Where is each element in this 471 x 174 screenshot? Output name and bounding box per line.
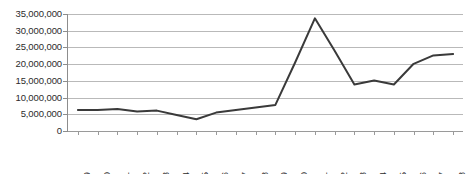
x-axis-tick-label: 1989 [82,172,92,174]
x-axis-tick-label: 1994 [181,172,191,174]
x-axis-tick [98,131,99,135]
y-axis-tick-label: 15,000,000 [0,76,62,86]
x-axis-tick [315,131,316,135]
plot-area [68,14,463,131]
x-axis-tick [177,131,178,135]
x-axis-tick-label: 1990 [102,172,112,174]
x-axis-tick [216,131,217,135]
x-axis-tick-label: 1998 [260,172,270,174]
x-axis-tick-label: 1991 [121,172,131,174]
y-axis-tick-label: 5,000,000 [0,109,62,119]
x-axis-tick [354,131,355,135]
x-axis-tick-label: 1992 [141,172,151,174]
x-axis-tick [236,131,237,135]
x-axis-tick-label: 2003 [358,172,368,174]
series-line [78,18,453,119]
x-axis-tick-label: 1996 [220,172,230,174]
x-axis-tick-label: 1995 [200,172,210,174]
x-axis-tick [335,131,336,135]
x-axis-tick [453,131,454,135]
y-axis-tick-label: 35,000,000 [0,9,62,19]
x-axis-tick [394,131,395,135]
x-axis-tick-label: 2007 [437,172,447,174]
y-axis-tick-label: 25,000,000 [0,42,62,52]
x-axis-tick [275,131,276,135]
x-axis-tick-label: 2001 [319,172,329,174]
x-axis-tick-label: 2004 [378,172,388,174]
x-axis-tick [256,131,257,135]
y-axis-tick-label: 0 [0,126,62,136]
series-line-group [68,14,463,131]
x-axis-tick-label: 1997 [240,172,250,174]
y-axis-labels: 35,000,00030,000,00025,000,00020,000,000… [0,0,62,174]
x-axis-tick [137,131,138,135]
x-axis-tick-label: 1999 [279,172,289,174]
x-axis-ticks [68,131,463,135]
x-axis-tick [117,131,118,135]
x-axis-tick-label: 2005 [398,172,408,174]
x-axis-tick [196,131,197,135]
x-axis-tick [295,131,296,135]
x-axis-tick-label: 2000 [299,172,309,174]
x-axis-tick [78,131,79,135]
y-axis-tick-label: 30,000,000 [0,26,62,36]
x-axis-tick-label: 1993 [161,172,171,174]
y-axis-tick-label: 20,000,000 [0,59,62,69]
x-axis-tick [157,131,158,135]
x-axis-tick [433,131,434,135]
x-axis-tick [374,131,375,135]
x-axis-tick-label: 2008 [457,172,467,174]
x-axis-labels: 1989199019911992199319941995199619971998… [68,136,463,174]
line-chart: 35,000,00030,000,00025,000,00020,000,000… [0,0,471,174]
y-axis-tick-label: 10,000,000 [0,93,62,103]
x-axis-tick-label: 2006 [418,172,428,174]
x-axis-tick [414,131,415,135]
x-axis-tick-label: 2002 [339,172,349,174]
